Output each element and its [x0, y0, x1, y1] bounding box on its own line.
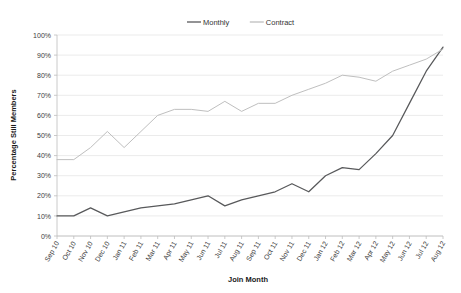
legend-label-monthly: Monthly: [203, 18, 230, 27]
legend-label-contract: Contract: [266, 18, 295, 27]
y-tick-label: 70%: [37, 92, 51, 99]
y-axis-title: Percentage Still Members: [9, 89, 18, 180]
y-tick-label: 90%: [37, 52, 51, 59]
axis-lines-group: [54, 35, 443, 239]
y-tick-label: 40%: [37, 152, 51, 159]
x-tick-label: Oct 10: [61, 240, 77, 261]
legend-group: MonthlyContract: [187, 18, 295, 27]
x-axis-title: Join Month: [228, 275, 268, 284]
y-tick-labels-group: 0%10%20%30%40%50%60%70%80%90%100%: [33, 32, 51, 240]
chart-canvas: 0%10%20%30%40%50%60%70%80%90%100% Sep 10…: [0, 0, 461, 293]
line-chart: 0%10%20%30%40%50%60%70%80%90%100% Sep 10…: [0, 0, 461, 293]
x-tick-label: Aug 12: [429, 240, 447, 263]
series-line-monthly: [57, 47, 443, 216]
x-tick-label: Mar 11: [144, 240, 161, 262]
x-tick-label: Nov 11: [278, 240, 295, 262]
y-tick-label: 80%: [37, 72, 51, 79]
data-series-group: [57, 47, 443, 216]
x-tick-label: Sep 11: [245, 240, 263, 263]
x-tick-label: Feb 12: [329, 240, 346, 262]
y-tick-label: 60%: [37, 112, 51, 119]
x-tick-label: Oct 11: [262, 240, 278, 261]
x-tick-label: Jan 11: [111, 240, 127, 261]
x-tick-label: Nov 10: [77, 240, 94, 263]
x-tick-label: Sep 10: [43, 240, 61, 263]
x-tick-label: Jun 12: [396, 240, 413, 262]
x-tick-label: Jul 12: [414, 240, 429, 260]
x-tick-label: Dec 11: [295, 240, 312, 262]
y-tick-label: 10%: [37, 213, 51, 220]
y-tick-label: 100%: [33, 32, 51, 39]
x-tick-label: Mar 12: [345, 240, 362, 262]
x-tick-label: Aug 11: [228, 240, 246, 263]
gridlines-group: [57, 35, 443, 236]
x-tick-label: Jun 11: [195, 240, 211, 261]
y-tick-label: 0%: [41, 233, 51, 240]
x-tick-labels-group: Sep 10Oct 10Nov 10Dec 10Jan 11Feb 11Mar …: [43, 240, 447, 264]
x-tick-label: Jan 12: [312, 240, 329, 262]
x-tick-label: Apr 11: [162, 240, 179, 262]
x-tick-label: Jul 11: [213, 240, 228, 259]
x-tick-label: May 12: [378, 240, 396, 264]
x-tick-label: Dec 10: [94, 240, 111, 263]
x-tick-label: Apr 12: [363, 240, 380, 262]
x-tick-label: Feb 11: [128, 240, 145, 262]
x-tick-label: May 11: [177, 240, 195, 264]
y-tick-label: 50%: [37, 132, 51, 139]
y-tick-label: 30%: [37, 172, 51, 179]
y-tick-label: 20%: [37, 192, 51, 199]
